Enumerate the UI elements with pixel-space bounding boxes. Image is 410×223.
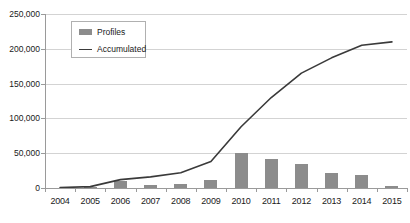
x-axis-tick-label: 2011 <box>256 197 286 206</box>
x-axis-tick-label: 2009 <box>196 197 226 206</box>
x-axis-tick-mark <box>136 188 137 192</box>
x-axis-tick-mark <box>196 188 197 192</box>
legend-line-swatch-icon <box>79 49 92 50</box>
x-axis-tick-mark <box>45 188 46 192</box>
x-axis-tick-mark <box>407 188 408 192</box>
x-axis-tick-mark <box>347 188 348 192</box>
x-axis-tick-mark <box>256 188 257 192</box>
legend-item-profiles: Profiles <box>72 24 145 40</box>
legend-label-accumulated: Accumulated <box>97 45 146 54</box>
x-axis-tick-mark <box>377 188 378 192</box>
x-axis-tick-label: 2008 <box>166 197 196 206</box>
y-axis-tick-label: 50,000 <box>0 149 40 158</box>
x-axis-tick-mark <box>226 188 227 192</box>
y-axis-tick-label: 200,000 <box>0 45 40 54</box>
x-axis-tick-label: 2014 <box>347 197 377 206</box>
x-axis-tick-mark <box>286 188 287 192</box>
x-axis-tick-label: 2004 <box>45 197 75 206</box>
x-axis-tick-mark <box>317 188 318 192</box>
x-axis-tick-label: 2013 <box>317 197 347 206</box>
x-axis-tick-label: 2015 <box>377 197 407 206</box>
x-axis-tick-label: 2010 <box>226 197 256 206</box>
x-axis-tick-mark <box>166 188 167 192</box>
x-axis-tick-label: 2006 <box>105 197 135 206</box>
chart-container: 050,000100,000150,000200,000250,000 2004… <box>0 0 410 223</box>
x-axis-tick-label: 2012 <box>286 197 316 206</box>
chart-legend: Profiles Accumulated <box>71 21 146 58</box>
x-axis-tick-mark <box>75 188 76 192</box>
y-axis-tick-label: 150,000 <box>0 79 40 88</box>
x-axis-tick-mark <box>105 188 106 192</box>
legend-label-profiles: Profiles <box>97 28 125 37</box>
y-axis-tick-label: 100,000 <box>0 114 40 123</box>
y-axis-tick-label: 0 <box>0 184 40 193</box>
legend-bar-swatch-icon <box>79 29 92 35</box>
x-axis-tick-label: 2005 <box>75 197 105 206</box>
y-axis-tick-label: 250,000 <box>0 10 40 19</box>
x-axis-tick-label: 2007 <box>136 197 166 206</box>
legend-item-accumulated: Accumulated <box>72 41 145 57</box>
